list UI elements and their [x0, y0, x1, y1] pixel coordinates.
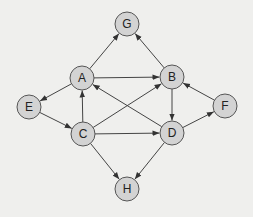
- edge-d-to-f: [183, 112, 214, 128]
- node-label: E: [25, 100, 33, 114]
- edge-c-to-h: [91, 143, 120, 179]
- edge-c-to-d: [95, 133, 160, 134]
- edge-c-to-a: [82, 91, 83, 123]
- node-c: C: [71, 122, 95, 146]
- node-label: H: [123, 182, 132, 196]
- node-f: F: [213, 94, 237, 118]
- edge-d-to-h: [135, 142, 165, 179]
- edge-a-to-g: [90, 34, 119, 69]
- edge-b-to-g: [135, 34, 164, 68]
- nodes-layer: GABEFCDH: [17, 12, 237, 201]
- graph-canvas: GABEFCDH: [0, 0, 253, 217]
- edge-a-to-e: [40, 84, 72, 101]
- edge-a-to-b: [94, 77, 160, 78]
- node-a: A: [70, 66, 94, 90]
- node-label: F: [221, 99, 228, 113]
- node-h: H: [115, 177, 139, 201]
- node-label: B: [168, 70, 176, 84]
- node-label: G: [122, 17, 131, 31]
- edge-c-to-b: [93, 84, 161, 128]
- node-label: D: [168, 126, 177, 140]
- node-label: C: [79, 127, 88, 141]
- node-label: A: [78, 71, 86, 85]
- node-b: B: [160, 65, 184, 89]
- node-e: E: [17, 95, 41, 119]
- edges-layer: [40, 34, 215, 180]
- edge-f-to-b: [183, 83, 215, 100]
- node-g: G: [115, 12, 139, 36]
- node-d: D: [160, 121, 184, 145]
- edge-e-to-c: [40, 112, 72, 128]
